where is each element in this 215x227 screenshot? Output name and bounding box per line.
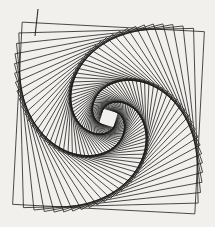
square-outline [14, 24, 202, 212]
square-outline [80, 89, 138, 147]
square-outline [49, 59, 168, 178]
square-outline [25, 34, 193, 202]
square-outline [40, 50, 177, 187]
square-outline [22, 31, 196, 205]
square-outline [69, 78, 149, 158]
square-outline [17, 26, 200, 209]
square-outline [68, 77, 149, 158]
whirl-squares-figure [0, 0, 215, 227]
square-outline [54, 63, 163, 172]
square-outline [69, 78, 149, 158]
square-outline [36, 45, 181, 190]
rotated-squares-group [13, 22, 205, 214]
square-outline [16, 26, 200, 210]
square-outline [69, 78, 148, 157]
square-outline [28, 38, 189, 199]
square-outline [69, 79, 148, 158]
square-outline [63, 73, 154, 164]
square-outline [72, 81, 146, 155]
square-outline [45, 54, 173, 182]
square-outline [78, 87, 140, 149]
square-outline [15, 25, 202, 212]
square-outline [13, 22, 205, 214]
square-outline [15, 25, 201, 211]
square-outline [74, 84, 142, 152]
square-outline [15, 24, 203, 212]
scanned-page-background [0, 0, 215, 227]
